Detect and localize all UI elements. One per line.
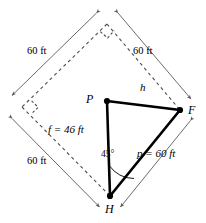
dimension-label-bottom-left: 60 ft <box>27 156 47 167</box>
right-angle-icon-left <box>31 101 38 114</box>
dimension-label-top-left: 60 ft <box>27 46 47 57</box>
angle-label-45: 45° <box>101 150 114 160</box>
square-side-top-left <box>22 24 107 107</box>
side-label-hf: p = 60 ft <box>137 148 175 159</box>
geometry-figure: P F H f = 46 ft h p = 60 ft 45° 60 ft 60… <box>0 0 206 223</box>
right-angle-marks <box>31 31 114 115</box>
dimension-label-top-right: 60 ft <box>133 46 153 57</box>
right-angle-icon-top <box>100 31 114 39</box>
side-label-ph: f = 46 ft <box>48 124 84 135</box>
dimension-line-bottom-right <box>121 121 191 208</box>
figure-canvas <box>0 0 206 223</box>
dimension-line-top-right <box>118 13 191 99</box>
square-side-top-right <box>107 24 180 110</box>
vertex-dot-h <box>107 193 113 199</box>
dimension-line-top-left <box>12 13 97 96</box>
vertex-dot-f <box>177 107 183 113</box>
vertex-label-h: H <box>105 203 114 215</box>
vertex-label-p: P <box>86 93 93 105</box>
dimension-lines <box>12 13 191 207</box>
vertex-label-f: F <box>188 104 195 116</box>
side-label-pf: h <box>140 82 146 93</box>
square-side-bottom-left <box>22 107 110 196</box>
vertex-dot-p <box>104 98 110 104</box>
